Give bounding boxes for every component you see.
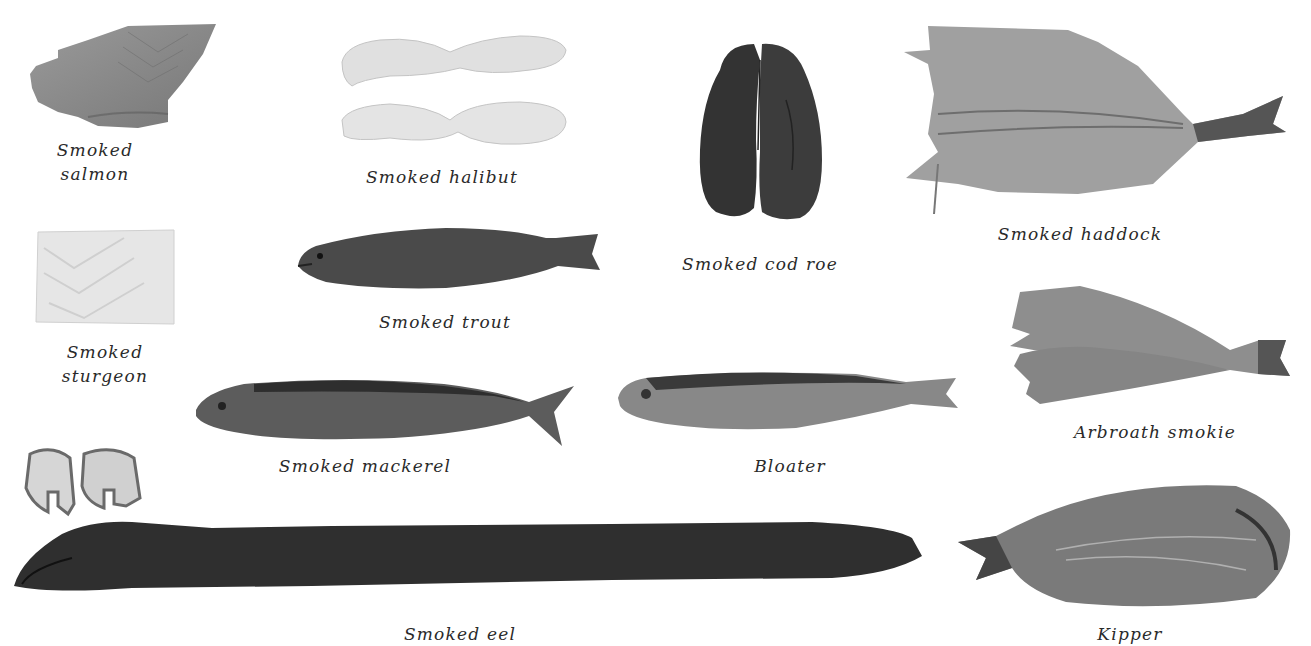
- kipper-image: [956, 480, 1294, 612]
- arbroath-smokie-image: [1000, 284, 1290, 412]
- smoked-cod-roe-image: [696, 40, 826, 222]
- smoked-sturgeon-image: [34, 228, 176, 326]
- bloater-image: [616, 368, 962, 434]
- caption-bloater: Bloater: [740, 454, 840, 478]
- caption-smoked-salmon: Smoked salmon: [50, 138, 140, 186]
- caption-smoked-eel: Smoked eel: [390, 622, 530, 646]
- smoked-halibut-image: [340, 32, 568, 152]
- caption-kipper: Kipper: [1080, 622, 1180, 646]
- smoked-eel-image: [12, 518, 924, 594]
- smoked-trout-image: [296, 224, 602, 294]
- caption-smoked-haddock: Smoked haddock: [990, 222, 1170, 246]
- caption-smoked-mackerel: Smoked mackerel: [270, 454, 460, 478]
- caption-smoked-halibut: Smoked halibut: [352, 165, 532, 189]
- smoked-salmon-image: [28, 22, 218, 130]
- caption-smoked-trout: Smoked trout: [370, 310, 520, 334]
- caption-smoked-cod-roe: Smoked cod roe: [680, 252, 840, 276]
- smoked-eel-slices-image: [22, 444, 144, 522]
- smoked-haddock-image: [898, 24, 1290, 214]
- smoked-mackerel-image: [194, 376, 580, 450]
- caption-smoked-sturgeon: Smoked sturgeon: [50, 340, 160, 388]
- caption-arbroath-smokie: Arbroath smokie: [1060, 420, 1250, 444]
